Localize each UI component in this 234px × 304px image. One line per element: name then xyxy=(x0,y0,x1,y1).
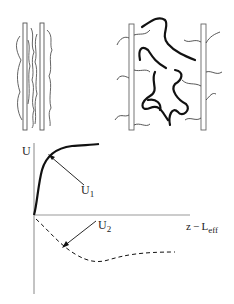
potential-graph xyxy=(34,143,190,294)
x-axis-label-sub: eff xyxy=(208,225,218,235)
right-plate-2 xyxy=(201,24,206,130)
x-axis-label-main: z − L xyxy=(186,220,208,232)
curve-u1-label: U1 xyxy=(81,184,94,196)
diagram-canvas xyxy=(0,0,234,304)
curve-u1-label-main: U xyxy=(81,183,90,197)
left-plate-2 xyxy=(40,23,44,130)
u1-pointer xyxy=(50,156,84,185)
curve-u1 xyxy=(34,144,99,215)
curve-u2-label-main: U xyxy=(98,218,107,232)
y-axis-label: U xyxy=(22,145,31,157)
curve-u1-label-sub: 1 xyxy=(90,189,95,199)
u2-arrowhead xyxy=(62,241,69,248)
curve-u2-label: U2 xyxy=(98,219,111,231)
right-plate-1 xyxy=(129,24,134,130)
x-axis-label: z − Leff xyxy=(186,221,218,232)
left-plates-figure xyxy=(16,23,52,130)
right-plates-figure xyxy=(115,18,222,130)
curve-u2-label-sub: 2 xyxy=(107,224,112,234)
u2-pointer xyxy=(64,221,96,246)
y-axis-label-text: U xyxy=(22,144,31,158)
left-plate-1 xyxy=(23,23,27,130)
